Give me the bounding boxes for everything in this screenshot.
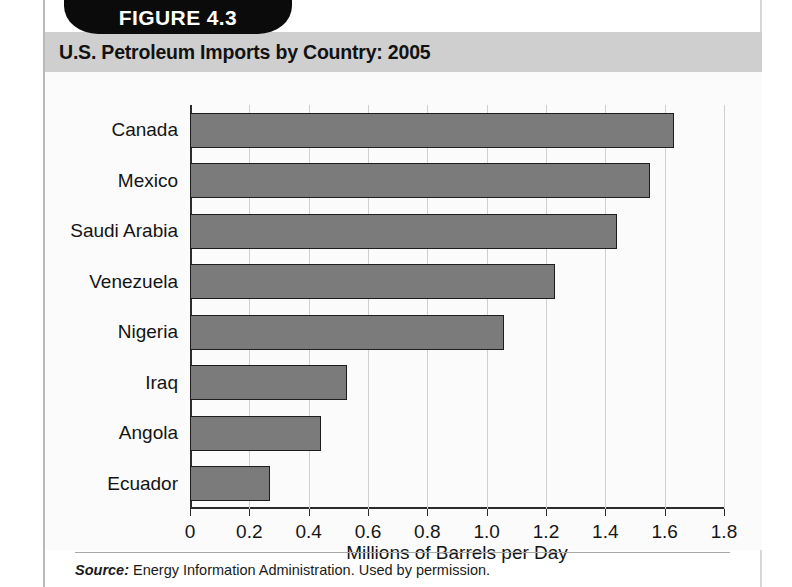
gridline bbox=[724, 105, 725, 509]
x-axis-tick bbox=[724, 509, 725, 516]
bar-row: Venezuela bbox=[190, 257, 724, 308]
bar bbox=[190, 315, 504, 350]
bar bbox=[190, 264, 555, 299]
bar-row: Saudi Arabia bbox=[190, 206, 724, 257]
category-label: Mexico bbox=[118, 170, 178, 192]
category-label: Saudi Arabia bbox=[70, 220, 178, 242]
bar-row: Angola bbox=[190, 408, 724, 459]
x-axis-tick-label: 1.2 bbox=[533, 521, 559, 543]
bar bbox=[190, 416, 321, 451]
figure-number-label: FIGURE 4.3 bbox=[119, 6, 237, 30]
bar bbox=[190, 113, 674, 148]
x-axis-tick-label: 1.0 bbox=[473, 521, 499, 543]
x-axis-tick-label: 0.6 bbox=[355, 521, 381, 543]
source-note: Source: Energy Information Administratio… bbox=[75, 562, 490, 578]
x-axis-tick-label: 0.4 bbox=[295, 521, 321, 543]
category-label: Venezuela bbox=[89, 271, 178, 293]
bar bbox=[190, 214, 617, 249]
figure-title-band: U.S. Petroleum Imports by Country: 2005 bbox=[45, 32, 762, 72]
category-label: Canada bbox=[111, 119, 178, 141]
chart-canvas: 00.20.40.60.81.01.21.41.61.8 CanadaMexic… bbox=[45, 72, 762, 550]
x-axis-tick bbox=[665, 509, 666, 516]
x-axis-tick bbox=[487, 509, 488, 516]
bar-row: Ecuador bbox=[190, 459, 724, 510]
x-axis-tick-label: 1.8 bbox=[711, 521, 737, 543]
category-label: Nigeria bbox=[118, 321, 178, 343]
x-axis-tick bbox=[427, 509, 428, 516]
x-axis-tick-label: 1.4 bbox=[592, 521, 618, 543]
category-label: Iraq bbox=[145, 372, 178, 394]
x-axis-tick-label: 0.2 bbox=[236, 521, 262, 543]
x-axis-tick bbox=[190, 509, 191, 516]
x-axis-title: Millions of Barrels per Day bbox=[190, 542, 724, 564]
source-body: Energy Information Administration. Used … bbox=[133, 562, 490, 578]
x-axis-tick-label: 1.6 bbox=[651, 521, 677, 543]
figure-container: FIGURE 4.3 U.S. Petroleum Imports by Cou… bbox=[0, 0, 792, 587]
bar bbox=[190, 466, 270, 501]
figure-title: U.S. Petroleum Imports by Country: 2005 bbox=[59, 41, 430, 64]
source-divider bbox=[75, 552, 730, 553]
bar bbox=[190, 365, 347, 400]
category-label: Ecuador bbox=[107, 473, 178, 495]
bar-row: Canada bbox=[190, 105, 724, 156]
x-axis-tick-label: 0 bbox=[185, 521, 196, 543]
x-axis-tick bbox=[368, 509, 369, 516]
figure-number-tab: FIGURE 4.3 bbox=[64, 0, 292, 34]
bar-row: Iraq bbox=[190, 358, 724, 409]
x-axis-tick bbox=[605, 509, 606, 516]
x-axis-tick bbox=[546, 509, 547, 516]
x-axis-tick-label: 0.8 bbox=[414, 521, 440, 543]
x-axis-tick bbox=[249, 509, 250, 516]
plot-area: 00.20.40.60.81.01.21.41.61.8 CanadaMexic… bbox=[190, 105, 724, 509]
bar-row: Nigeria bbox=[190, 307, 724, 358]
x-axis-tick bbox=[309, 509, 310, 516]
source-label: Source: bbox=[75, 562, 129, 578]
bar-row: Mexico bbox=[190, 156, 724, 207]
category-label: Angola bbox=[119, 422, 178, 444]
bar bbox=[190, 163, 650, 198]
